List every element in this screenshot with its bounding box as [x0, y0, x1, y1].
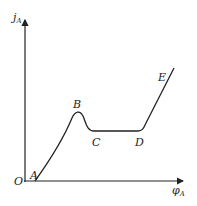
point-label-d: D [134, 136, 144, 149]
anodic-polarization-diagram: jA φA O A B C D E [0, 0, 197, 206]
polarization-curve [35, 68, 174, 181]
point-label-b: B [72, 98, 81, 111]
point-label-a: A [29, 169, 38, 182]
origin-label: O [14, 175, 23, 188]
point-label-e: E [157, 71, 166, 84]
point-label-c: C [92, 136, 101, 149]
x-axis-label: φA [172, 184, 185, 198]
y-axis-label: jA [10, 11, 21, 25]
